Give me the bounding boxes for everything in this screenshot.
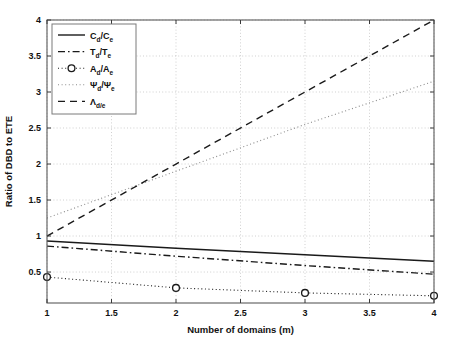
y-tick-label: 4	[36, 15, 41, 25]
x-tick-label: 2	[173, 308, 178, 318]
line-chart: 11.522.533.540.511.522.533.54 Number of …	[0, 0, 457, 341]
y-tick-label: 2.5	[28, 123, 41, 133]
y-tick-label: 2	[36, 159, 41, 169]
data-point-marker	[173, 284, 180, 291]
chart-legend: Cd/CeTd/TeAd/AeΨd/ΨeΛd/e	[52, 24, 136, 114]
chart-figure: 11.522.533.540.511.522.533.54 Number of …	[0, 0, 457, 341]
x-tick-label: 1.5	[105, 308, 118, 318]
x-tick-label: 4	[431, 308, 436, 318]
y-tick-label: 3	[36, 87, 41, 97]
y-axis-title: Ratio of DBD to ETE	[3, 116, 14, 207]
y-tick-label: 0.5	[28, 267, 41, 277]
x-tick-label: 3.5	[363, 308, 376, 318]
y-tick-label: 3.5	[28, 51, 41, 61]
y-tick-label: 1	[36, 231, 41, 241]
x-tick-label: 1	[44, 308, 49, 318]
x-tick-label: 3	[302, 308, 307, 318]
y-tick-label: 1.5	[28, 195, 41, 205]
legend-marker-sample	[68, 65, 75, 72]
data-point-marker	[302, 290, 309, 297]
x-axis-title: Number of domains (m)	[187, 324, 294, 335]
x-tick-label: 2.5	[234, 308, 247, 318]
